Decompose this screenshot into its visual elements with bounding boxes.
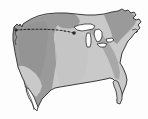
- central-plains-light-wedge: [55, 28, 88, 85]
- map-canvas: [0, 0, 148, 119]
- lake-michigan: [86, 33, 91, 47]
- route-end-marker: [72, 31, 76, 35]
- land-base-group: [0, 0, 148, 119]
- map-figure: [0, 0, 148, 119]
